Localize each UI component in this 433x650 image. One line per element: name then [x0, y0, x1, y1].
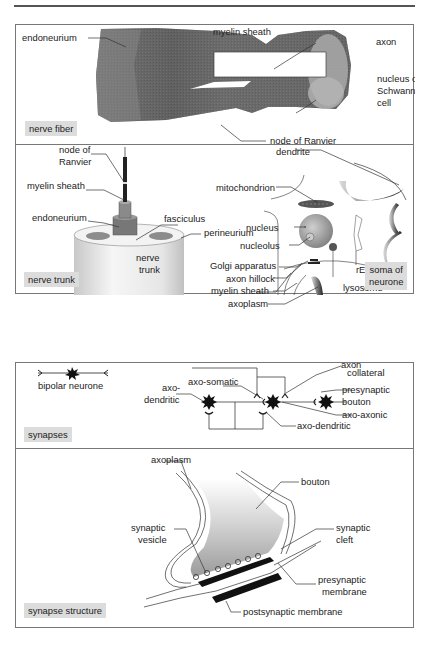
- label-presynaptic-membrane-1: presynaptic: [318, 574, 366, 585]
- tag-synapses: synapses: [24, 427, 72, 442]
- label-axoplasm-soma: axoplasm: [228, 298, 268, 309]
- label-presynaptic-membrane-2: membrane: [322, 586, 367, 597]
- synapses-illustration: bipolar neurone axo- dendritic ax: [16, 363, 415, 450]
- label-presynaptic: presynaptic: [342, 384, 390, 395]
- label-nucleus-of: nucleus of: [377, 73, 415, 84]
- label-myelin-sheath-soma: myelin sheath: [211, 285, 269, 296]
- label-cell: cell: [377, 97, 391, 108]
- tag-soma-of-neurone: soma of neurone: [365, 262, 407, 290]
- panel-nerve-trunk-soma: node of Ranvier myelin sheath endoneuriu…: [15, 144, 414, 294]
- tag-soma-line1: soma of: [369, 264, 403, 276]
- label-bouton: bouton: [342, 396, 371, 407]
- label-bouton-structure: bouton: [301, 476, 330, 487]
- panel-synapse-structure: axoplasm bouton synaptic vesicle synapti…: [15, 448, 414, 628]
- page-header-rule: [14, 5, 415, 7]
- synapse-structure-illustration: axoplasm bouton synaptic vesicle synapti…: [16, 449, 415, 629]
- label-bipolar-neurone: bipolar neurone: [38, 380, 103, 391]
- tag-soma-line2: neurone: [369, 276, 403, 288]
- label-axo-somatic: axo-somatic: [188, 376, 239, 387]
- label-dendritic: dendritic: [144, 394, 180, 405]
- label-myelin-sheath: myelin sheath: [213, 26, 271, 37]
- label-axo-axonic: axo-axonic: [342, 409, 388, 420]
- label-axo-dendritic: axo-dendritic: [297, 420, 351, 431]
- tag-nerve-fiber: nerve fiber: [25, 121, 77, 136]
- panel-synapses: bipolar neurone axo- dendritic ax: [15, 362, 414, 449]
- label-axo: axo-: [162, 382, 180, 393]
- label-axoplasm: axoplasm: [151, 454, 191, 465]
- label-axon-synapses: axon: [341, 359, 361, 370]
- label-synaptic-cleft-1: synaptic: [336, 522, 371, 533]
- label-schwann: Schwann: [377, 85, 415, 96]
- tag-synapse-structure: synapse structure: [24, 603, 106, 618]
- panel-nerve-fiber: endoneurium myelin sheath axon nucleus o…: [15, 24, 414, 145]
- label-endoneurium: endoneurium: [22, 32, 77, 43]
- label-postsynaptic-membrane: postsynaptic membrane: [243, 606, 343, 617]
- label-vesicle: vesicle: [138, 534, 167, 545]
- label-cleft: cleft: [336, 534, 354, 545]
- synapse-axon-label: axon: [0, 358, 433, 370]
- label-axon: axon: [376, 36, 396, 47]
- label-synaptic: synaptic: [131, 522, 166, 533]
